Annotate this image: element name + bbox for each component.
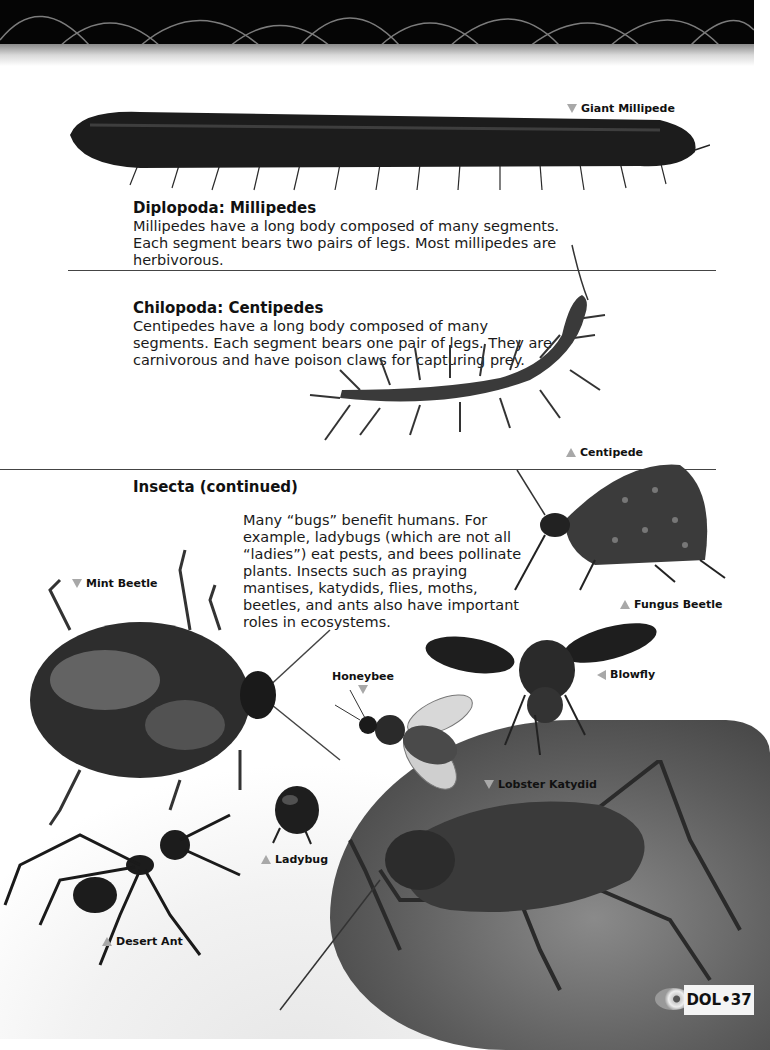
giant-millipede-label: Giant Millipede: [567, 102, 675, 115]
triangle-up-icon: [620, 600, 630, 609]
header-texture-band: [0, 0, 754, 46]
diplopoda-heading: Diplopoda: Millipedes: [133, 199, 316, 217]
fungus-beetle-label: Fungus Beetle: [620, 598, 723, 611]
triangle-up-icon: [566, 448, 576, 457]
triangle-down-icon: [567, 104, 577, 113]
blowfly-label: Blowfly: [597, 668, 655, 681]
triangle-up-icon: [102, 937, 112, 946]
triangle-left-icon: [597, 670, 606, 680]
chilopoda-heading: Chilopoda: Centipedes: [133, 299, 323, 317]
centipede-label: Centipede: [566, 446, 643, 459]
header-fade: [0, 44, 754, 66]
insecta-heading: Insecta (continued): [133, 478, 298, 496]
centipede-image: [300, 240, 630, 455]
page-number: DOL•37: [684, 985, 754, 1015]
triangle-down-icon: [72, 579, 82, 588]
desert-ant-label: Desert Ant: [102, 935, 183, 948]
fungus-beetle-image: [505, 460, 730, 595]
mint-beetle-label: Mint Beetle: [72, 577, 157, 590]
texture-pattern: [0, 0, 754, 46]
